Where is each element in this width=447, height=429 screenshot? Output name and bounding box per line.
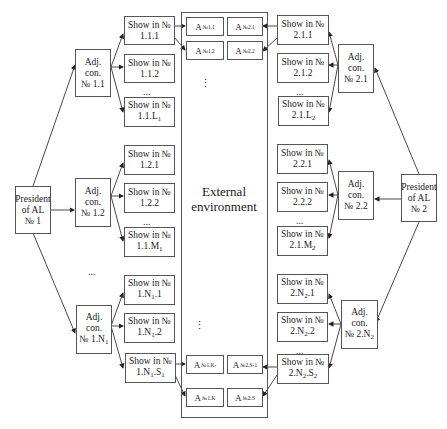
show-label: Show in № <box>281 148 324 159</box>
show-id: 2.1.1 <box>294 30 313 40</box>
show-id-tail: .S <box>306 368 314 378</box>
external-environment-label: External environment <box>181 184 267 214</box>
show-label: Show in № <box>282 99 325 110</box>
president-box-2[interactable]: President of AL № 2 <box>401 174 437 222</box>
show-box[interactable]: Show in № 2.1.1 <box>277 15 329 45</box>
show-id: 2.N <box>290 288 304 298</box>
show-box[interactable]: Show in № 2.1.L2 <box>278 96 329 126</box>
agent-base: A <box>194 360 201 370</box>
show-box[interactable]: Show in № 2.N2.1 <box>277 274 328 304</box>
adj-con-1-1[interactable]: Adj. con. № 1.1 <box>75 49 111 97</box>
show-box[interactable]: Show in № 2.2.2 <box>277 182 328 212</box>
env-label-line2: environment <box>181 199 267 214</box>
show-label: Show in № <box>128 20 171 31</box>
adj-label: Adj. con. <box>77 312 111 334</box>
show-label: Show in № <box>281 186 324 197</box>
show-label: Show in № <box>129 356 172 367</box>
vertical-ellipsis: ⋮ <box>200 78 202 89</box>
show-sub: 2 <box>312 244 316 252</box>
adj-label: № 1.1 <box>81 79 104 90</box>
horizontal-ellipsis: ... <box>296 216 304 226</box>
show-box[interactable]: Show in № 2.1.2 <box>277 53 329 83</box>
show-box[interactable]: Show in № 1.2.2 <box>124 183 175 213</box>
agent-box[interactable]: A№2.S-1 <box>227 355 263 374</box>
show-box[interactable]: Show in № 2.2.1 <box>277 144 328 174</box>
env-label-line1: External <box>181 184 267 199</box>
agent-box[interactable]: A№2.1 <box>227 17 263 36</box>
agent-box[interactable]: A№1.K- <box>186 355 224 374</box>
show-id: 2.1.M <box>289 240 312 250</box>
agent-box[interactable]: A№1.K <box>186 388 224 407</box>
show-label: Show in № <box>128 230 171 241</box>
show-id-tail: .1 <box>308 288 315 298</box>
show-label: Show in № <box>282 57 325 68</box>
adj-sub: 1 <box>105 338 109 346</box>
adj-con-2-2[interactable]: Adj. con. № 2.2 <box>338 171 374 220</box>
adj-con-2-n2[interactable]: Adj. con. № 2.N2 <box>341 300 378 349</box>
show-box[interactable]: Show in № 1.2.1 <box>124 145 175 175</box>
show-box[interactable]: Show in № 1.1.2 <box>124 54 175 83</box>
show-label: Show in № <box>128 316 171 327</box>
show-label: Show in № <box>281 229 324 240</box>
agent-sub: №1.2 <box>203 48 215 54</box>
president-label: № 1 <box>25 216 41 227</box>
adj-con-1-2[interactable]: Adj. con. № 1.2 <box>75 178 111 227</box>
show-box[interactable]: Show in № 1.1.1 <box>124 16 175 45</box>
agent-sub: №2.S <box>243 395 255 401</box>
agent-base: A <box>195 22 202 32</box>
show-box[interactable]: Show in № 2.1.M2 <box>277 226 328 256</box>
show-id: 1.1.M <box>136 241 159 251</box>
show-box[interactable]: Show in № 1.N1.2 <box>124 313 175 343</box>
show-box[interactable]: Show in № 2.N2.S2 <box>277 354 329 384</box>
show-box[interactable]: Show in № 1.N1.S1 <box>125 353 176 383</box>
show-label: Show in № <box>128 149 171 160</box>
show-id: 1.2.2 <box>140 198 159 208</box>
president-label: President <box>401 182 436 193</box>
agent-box[interactable]: A№2.S <box>227 388 263 407</box>
adj-label: Adj. con. <box>76 186 110 208</box>
adj-label: № 1.2 <box>81 208 104 219</box>
president-label: of AL <box>22 205 44 216</box>
adj-label: № 2.2 <box>344 201 367 212</box>
show-id: 1.1.1 <box>140 31 159 41</box>
show-sub: 1 <box>159 245 163 253</box>
agent-sub: №2.S-1 <box>240 362 257 368</box>
horizontal-ellipsis: ... <box>143 217 151 227</box>
show-id: 1.N <box>136 367 150 377</box>
show-id: 1.1.L <box>138 111 158 121</box>
show-id-tail: .2 <box>308 326 315 336</box>
show-box[interactable]: Show in № 1.N1.1 <box>124 275 175 305</box>
adj-label: № 1.N <box>80 334 105 344</box>
adj-con-1-n1[interactable]: Adj. con. № 1.N1 <box>76 305 112 354</box>
agent-sub: №2.2 <box>243 48 255 54</box>
president-label: of AL <box>408 193 430 204</box>
show-label: Show in № <box>128 58 171 69</box>
show-sub2: 2 <box>314 372 318 380</box>
show-box[interactable]: Show in № 1.1.L1 <box>124 97 175 127</box>
show-id-tail: .1 <box>155 289 162 299</box>
show-label: Show in № <box>281 315 324 326</box>
show-label: Show in № <box>128 278 171 289</box>
agent-sub: №1.K <box>202 395 215 401</box>
show-box[interactable]: Show in № 2.N2.2 <box>277 312 328 342</box>
show-box[interactable]: Show in № 1.1.M1 <box>124 227 175 257</box>
agent-base: A <box>195 46 202 56</box>
president-box-1[interactable]: President of AL № 1 <box>15 186 51 234</box>
show-id: 1.2.1 <box>140 160 159 170</box>
vertical-ellipsis: ⋮ <box>194 320 196 331</box>
show-id: 2.N <box>289 368 303 378</box>
agent-box[interactable]: A№2.2 <box>227 41 263 60</box>
agent-box[interactable]: A№1.1 <box>186 17 224 36</box>
show-id: 2.1.2 <box>294 68 313 78</box>
show-id: 2.1.L <box>292 110 312 120</box>
show-label: Show in № <box>282 357 325 368</box>
show-sub: 2 <box>312 114 316 122</box>
adj-con-2-1[interactable]: Adj. con. № 2.1 <box>338 44 374 93</box>
show-id: 1.1.2 <box>140 69 159 79</box>
agent-base: A <box>235 46 242 56</box>
horizontal-ellipsis: ... <box>88 267 96 277</box>
show-id: 1.N <box>137 327 151 337</box>
show-label: Show in № <box>282 19 325 30</box>
agent-box[interactable]: A№1.2 <box>186 41 224 60</box>
adj-label: Adj. con. <box>76 57 110 79</box>
